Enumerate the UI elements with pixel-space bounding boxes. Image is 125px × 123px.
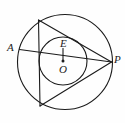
- point-label-a: A: [7, 42, 14, 53]
- chord-a-to-p: [20, 50, 112, 63]
- outer-circumcircle: [18, 15, 113, 110]
- point-label-o: O: [59, 64, 67, 75]
- geometry-canvas: [0, 0, 125, 123]
- geometry-figure: A P E O: [0, 0, 125, 123]
- point-label-e: E: [60, 38, 67, 49]
- triangle-side-left: [39, 20, 41, 106]
- point-label-p: P: [114, 54, 121, 65]
- triangle-side-bottom: [40, 62, 112, 106]
